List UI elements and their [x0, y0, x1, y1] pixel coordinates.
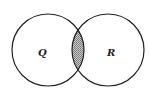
set-q-label: Q: [38, 47, 47, 58]
venn-diagram: Q R: [0, 0, 149, 97]
set-r-label: R: [106, 47, 115, 58]
